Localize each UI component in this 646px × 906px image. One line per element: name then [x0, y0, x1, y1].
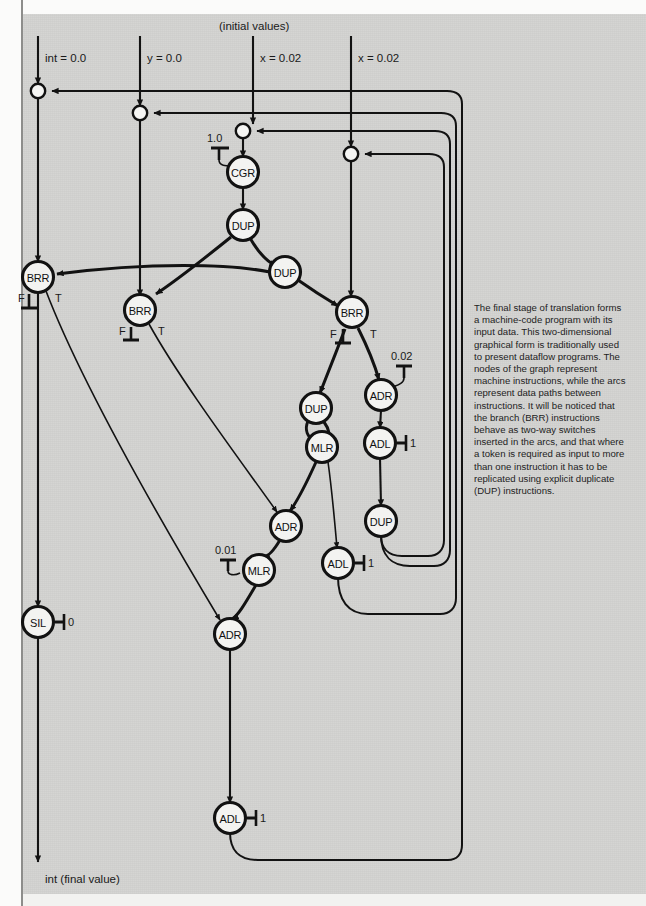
const-label-mlr2: 0.01 [215, 544, 236, 556]
const-label-adl1: 1 [410, 437, 416, 449]
node-cgr[interactable]: CGR [228, 157, 259, 188]
node-brr-1[interactable]: BRR [23, 262, 54, 293]
feedback-rail-3 [257, 131, 450, 566]
input-label-x2: x = 0.02 [358, 52, 399, 64]
input-label-x1: x = 0.02 [260, 52, 301, 64]
feedback-rails [52, 91, 462, 860]
node-brr-2[interactable]: BRR [125, 295, 156, 326]
node-label: ADL [370, 438, 391, 450]
figure-page: CGR DUP DUP BRR BRR BRR DUP ADR [0, 0, 646, 906]
input-label-y: y = 0.0 [147, 52, 182, 64]
const-label-sil: 0 [68, 616, 74, 628]
node-label: ADR [370, 390, 393, 402]
node-label: SIL [30, 617, 46, 629]
node-label: ADR [219, 629, 242, 641]
branch-label-brr1-false: F [18, 292, 25, 304]
node-mlr-1[interactable]: MLR [307, 432, 338, 463]
node-label: MLR [248, 565, 271, 577]
node-adl-1[interactable]: ADL [365, 428, 396, 459]
node-label: DUP [274, 267, 297, 279]
node-adr-2[interactable]: ADR [271, 511, 302, 542]
const-label-adl3: 1 [260, 812, 266, 824]
node-sil[interactable]: SIL [23, 607, 54, 638]
merge-point-x2 [344, 147, 358, 161]
merge-point-int [31, 84, 45, 98]
branch-label-brr3-false: F [330, 328, 337, 340]
feedback-rail-1 [52, 91, 462, 860]
branch-label-brr2-false: F [119, 325, 126, 337]
node-brr-3[interactable]: BRR [337, 297, 368, 328]
merge-point-x1 [236, 124, 250, 138]
final-value-label: int (final value) [45, 873, 120, 885]
node-label: DUP [305, 403, 328, 415]
branch-label-brr3-true: T [370, 328, 377, 340]
const-label-cgr: 1.0 [207, 132, 222, 144]
node-label: BRR [27, 272, 50, 284]
node-label: DUP [232, 220, 255, 232]
node-adr-3[interactable]: ADR [215, 619, 246, 650]
initial-values-label: (initial values) [219, 20, 289, 32]
branch-label-brr2-true: T [158, 325, 165, 337]
branch-label-brr1-true: T [55, 292, 62, 304]
node-label: MLR [311, 442, 334, 454]
input-label-int: int = 0.0 [45, 52, 86, 64]
caption-text: The final stage of translation forms a m… [474, 302, 626, 497]
node-label: BRR [129, 305, 152, 317]
const-label-adl2: 1 [368, 557, 374, 569]
node-adl-2[interactable]: ADL [323, 548, 354, 579]
merge-points [31, 84, 358, 161]
merge-point-y [133, 106, 147, 120]
node-dup-3[interactable]: DUP [301, 393, 332, 424]
node-label: BRR [341, 307, 364, 319]
node-label: DUP [370, 516, 393, 528]
node-dup-1[interactable]: DUP [228, 210, 259, 241]
node-label: ADL [328, 558, 349, 570]
node-dup-4[interactable]: DUP [366, 506, 397, 537]
constant-stubs [55, 148, 412, 826]
graph-arcs [38, 187, 381, 862]
node-label: CGR [231, 167, 255, 179]
node-adr-1[interactable]: ADR [366, 380, 397, 411]
node-adl-3[interactable]: ADL [215, 803, 246, 834]
node-dup-2[interactable]: DUP [270, 257, 301, 288]
feedback-rail-2 [154, 113, 456, 614]
node-mlr-2[interactable]: MLR [244, 555, 275, 586]
branch-false-stubs [21, 294, 351, 343]
graph-nodes: CGR DUP DUP BRR BRR BRR DUP ADR [23, 157, 397, 834]
const-label-adr1: 0.02 [391, 350, 412, 362]
node-label: ADL [220, 813, 241, 825]
node-label: ADR [275, 521, 298, 533]
figure-caption: The final stage of translation forms a m… [474, 302, 626, 497]
